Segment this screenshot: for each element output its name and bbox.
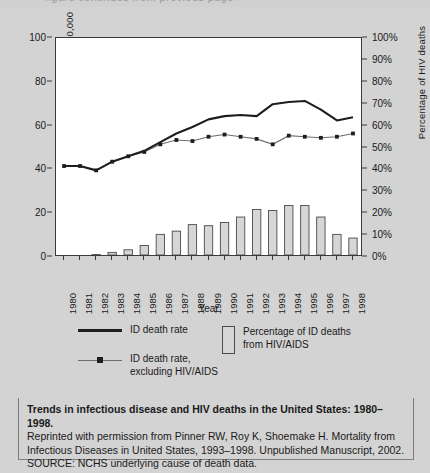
x-tickmark-1994 <box>288 256 289 260</box>
bar-1985 <box>140 245 148 255</box>
y-axis-right-title: Percentage of HIV deaths <box>416 3 427 163</box>
marker-excl-1996 <box>319 136 323 140</box>
y-left-tick-40: 40 <box>35 163 46 174</box>
legend-label-pct-hiv-aids: Percentage of ID deaths from HIV/AIDS <box>243 326 351 351</box>
marker-excl-1991 <box>239 135 243 139</box>
marker-line-swatch-icon <box>78 356 122 364</box>
figure-caption: Trends in infectious disease and HIV dea… <box>18 398 414 460</box>
y-axis-right-ticks: 0%10%20%30%40%50%60%70%80%90%100% <box>362 37 422 256</box>
y-right-tick-50pct: 50% <box>372 141 392 152</box>
x-tickmark-1982 <box>95 256 96 260</box>
y-right-tick-70pct: 70% <box>372 97 392 108</box>
bar-1987 <box>172 231 180 255</box>
x-tickmark-1990 <box>224 256 225 260</box>
y-right-tick-90pct: 90% <box>372 53 392 64</box>
x-tickmark-1984 <box>127 256 128 260</box>
x-tickmark-1991 <box>240 256 241 260</box>
marker-excl-1995 <box>303 135 307 139</box>
legend-item-id-death-rate-excl: ID death rate, excluding HIV/AIDS <box>78 353 218 378</box>
caption-title: Trends in infectious disease and HIV dea… <box>27 402 405 430</box>
bar-1983 <box>108 252 116 255</box>
y-right-tick-60pct: 60% <box>372 119 392 130</box>
bar-1991 <box>236 217 244 255</box>
legend-label-id-death-rate-excl: ID death rate, excluding HIV/AIDS <box>130 353 218 378</box>
x-tickmark-1997 <box>336 256 337 260</box>
x-tickmark-1981 <box>79 256 80 260</box>
bar-1998 <box>349 238 357 255</box>
y-right-tickmark-90pct <box>362 58 367 59</box>
marker-excl-1997 <box>335 135 339 139</box>
y-right-tick-100pct: 100% <box>372 32 398 43</box>
y-right-tick-80pct: 80% <box>372 75 392 86</box>
x-tickmark-1985 <box>143 256 144 260</box>
x-axis-title: Year <box>55 303 362 314</box>
x-tickmark-1989 <box>208 256 209 260</box>
legend-label-id-death-rate: ID death rate <box>130 324 188 337</box>
solid-line-swatch-icon <box>78 329 122 332</box>
y-right-tick-30pct: 30% <box>372 185 392 196</box>
x-tickmark-1993 <box>272 256 273 260</box>
marker-excl-1990 <box>223 133 227 137</box>
y-left-tickmark-40 <box>47 168 52 169</box>
bar-1989 <box>204 226 212 255</box>
y-left-tick-80: 80 <box>35 75 46 86</box>
y-right-tick-40pct: 40% <box>372 163 392 174</box>
chart-svg <box>56 38 361 255</box>
y-right-tickmark-20pct <box>362 212 367 213</box>
y-right-tickmark-60pct <box>362 124 367 125</box>
y-right-tick-10pct: 10% <box>372 229 392 240</box>
bar-1994 <box>285 206 293 255</box>
bar-1986 <box>156 234 164 255</box>
legend-item-id-death-rate: ID death rate <box>78 324 188 337</box>
bar-1993 <box>269 211 277 255</box>
bar-1997 <box>333 234 341 255</box>
marker-excl-1993 <box>271 142 275 146</box>
x-tickmark-1996 <box>320 256 321 260</box>
plot-inner <box>56 38 361 255</box>
y-left-tickmark-100 <box>47 37 52 38</box>
bar-1984 <box>124 250 132 255</box>
y-left-tickmark-80 <box>47 80 52 81</box>
y-left-tickmark-20 <box>47 212 52 213</box>
y-left-tick-20: 20 <box>35 207 46 218</box>
y-right-tick-0pct: 0% <box>372 251 386 262</box>
x-tickmark-1987 <box>175 256 176 260</box>
marker-excl-1992 <box>255 137 259 141</box>
top-cutoff-text: figure continues from previous page <box>45 0 234 3</box>
y-right-tickmark-30pct <box>362 190 367 191</box>
x-axis-ticks: 1980198119821983198419851986198719881989… <box>55 257 362 301</box>
y-right-tickmark-100pct <box>362 37 367 38</box>
y-right-tickmark-0pct <box>362 256 367 257</box>
chart: Crude Death Rate per 100,000 02040608010… <box>0 14 430 314</box>
y-axis-left-ticks: 020406080100 <box>0 37 52 256</box>
bar-1990 <box>220 222 228 255</box>
marker-excl-1989 <box>207 135 211 139</box>
x-tickmark-1992 <box>256 256 257 260</box>
bar-1992 <box>252 209 260 255</box>
figure-page: figure continues from previous page Crud… <box>0 0 430 473</box>
bar-1995 <box>301 206 309 255</box>
bar-1996 <box>317 217 325 255</box>
y-left-tick-100: 100 <box>29 32 46 43</box>
y-right-tickmark-70pct <box>362 102 367 103</box>
x-tickmark-1995 <box>304 256 305 260</box>
plot-area <box>55 37 362 256</box>
marker-excl-1988 <box>191 139 195 143</box>
y-left-tick-0: 0 <box>40 251 46 262</box>
chart-legend: ID death rate ID death rate, excluding H… <box>0 317 430 395</box>
y-right-tickmark-10pct <box>362 234 367 235</box>
x-tickmark-1980 <box>63 256 64 260</box>
marker-excl-1994 <box>287 134 291 138</box>
marker-excl-1998 <box>351 132 355 136</box>
legend-item-pct-hiv-aids: Percentage of ID deaths from HIV/AIDS <box>222 326 351 354</box>
y-left-tickmark-0 <box>47 256 52 257</box>
marker-excl-1987 <box>174 138 178 142</box>
y-right-tick-20pct: 20% <box>372 207 392 218</box>
y-left-tickmark-60 <box>47 124 52 125</box>
x-tickmark-1986 <box>159 256 160 260</box>
bar-1988 <box>188 225 196 255</box>
x-tickmark-1983 <box>111 256 112 260</box>
x-tickmark-1988 <box>191 256 192 260</box>
y-right-tickmark-40pct <box>362 168 367 169</box>
y-right-tickmark-80pct <box>362 80 367 81</box>
